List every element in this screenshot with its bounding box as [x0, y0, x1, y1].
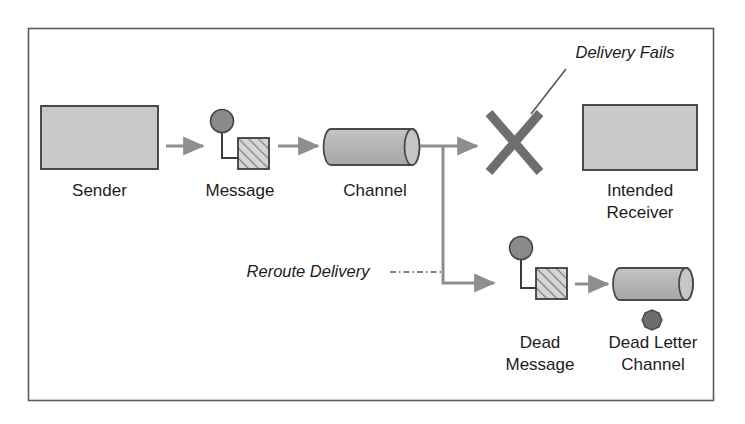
message-dot-icon [211, 110, 234, 133]
dead-letter-channel-label-line2: Channel [621, 355, 684, 374]
dead-letter-channel-label-line1: Dead Letter [609, 333, 698, 352]
dead-message-dot-icon [510, 237, 533, 260]
message-body-icon [238, 138, 269, 169]
reroute-delivery-label: Reroute Delivery [247, 262, 372, 280]
channel-label: Channel [343, 181, 406, 200]
intended-receiver-box [583, 105, 697, 170]
intended-receiver-label-line2: Receiver [606, 203, 673, 222]
delivery-fails-label: Delivery Fails [575, 43, 674, 61]
dead-letter-channel-diagram: Sender Message Channel [0, 0, 745, 424]
sender-label: Sender [72, 181, 127, 200]
channel-cylinder-cap [405, 129, 420, 165]
diagram-canvas: Sender Message Channel [0, 0, 745, 424]
dead-message-body-icon [536, 268, 567, 299]
sender-box [41, 106, 158, 169]
dead-message-label-line2: Message [506, 355, 575, 374]
dead-message-label-line1: Dead [520, 333, 561, 352]
dead-letter-marker-dot-icon [642, 310, 662, 330]
intended-receiver-label-line1: Intended [607, 181, 673, 200]
message-label: Message [206, 181, 275, 200]
dead-letter-channel-cylinder-cap [679, 268, 693, 300]
